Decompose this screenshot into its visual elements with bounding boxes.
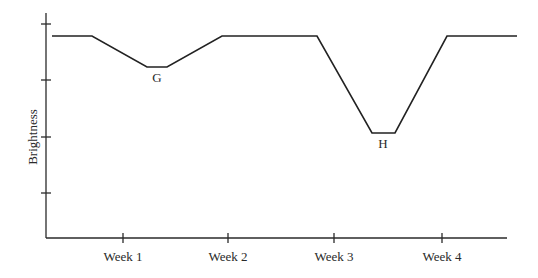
x-tick-label-week-2: Week 2 (208, 249, 247, 264)
annotation-h: H (378, 136, 387, 151)
annotation-g: G (152, 70, 161, 85)
brightness-line (52, 36, 517, 133)
y-axis-label: Brightness (25, 109, 40, 165)
x-tick-label-week-3: Week 3 (314, 249, 353, 264)
brightness-chart: Week 1 Week 2 Week 3 Week 4 Brightness G… (0, 0, 538, 278)
x-tick-label-week-4: Week 4 (422, 249, 462, 264)
x-tick-label-week-1: Week 1 (103, 249, 142, 264)
